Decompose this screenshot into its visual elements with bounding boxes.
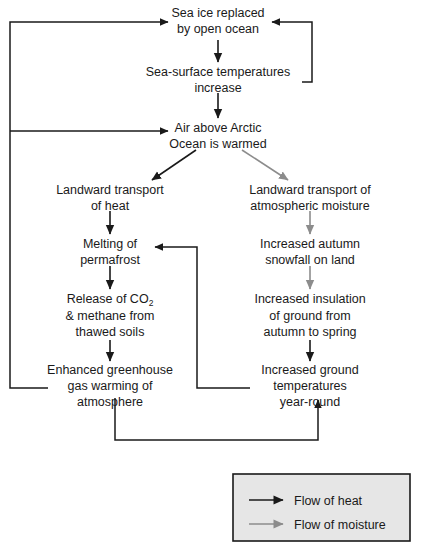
- release-co2-subscript: 2: [149, 298, 154, 308]
- node-landward-transport-moisture: Landward transport of atmospheric moistu…: [249, 183, 371, 213]
- node-label-line: atmospheric moisture: [250, 199, 370, 213]
- node-melting-permafrost: Melting of permafrost: [80, 237, 140, 267]
- node-label-line: gas warming of: [68, 379, 153, 393]
- release-co2-text: Release of CO: [67, 292, 149, 306]
- node-sea-surface-temperatures: Sea-surface temperatures increase: [146, 65, 291, 95]
- node-label-line: thawed soils: [76, 325, 145, 339]
- node-label-line: Sea ice replaced: [171, 6, 264, 20]
- legend-label-heat: Flow of heat: [294, 494, 363, 508]
- node-label-line: Release of CO2: [67, 292, 154, 308]
- node-label-line: year-round: [280, 395, 340, 409]
- node-label-line: Sea-surface temperatures: [146, 65, 291, 79]
- legend: Flow of heat Flow of moisture: [233, 474, 410, 541]
- node-label-line: of heat: [91, 199, 130, 213]
- node-label-line: of ground from: [269, 309, 350, 323]
- node-enhanced-greenhouse-warming: Enhanced greenhouse gas warming of atmos…: [47, 363, 173, 409]
- node-label-line: autumn to spring: [263, 325, 356, 339]
- node-label-line: Melting of: [83, 237, 138, 251]
- node-label-line: Ocean is warmed: [169, 137, 266, 151]
- flowchart-canvas: Sea ice replaced by open ocean Sea-surfa…: [0, 0, 421, 551]
- node-sea-ice-replaced: Sea ice replaced by open ocean: [171, 6, 264, 36]
- node-label-line: Increased insulation: [254, 292, 365, 306]
- node-landward-transport-heat: Landward transport of heat: [56, 183, 164, 213]
- node-label-line: by open ocean: [177, 22, 259, 36]
- node-label-line: atmosphere: [77, 395, 143, 409]
- node-increased-ground-temperatures: Increased ground temperatures year-round: [261, 363, 358, 409]
- node-label-line: Enhanced greenhouse: [47, 363, 173, 377]
- edge-air-to-lt-heat: [152, 150, 196, 180]
- node-release-of-co2-methane: Release of CO2 & methane from thawed soi…: [66, 292, 155, 339]
- node-increased-autumn-snowfall: Increased autumn snowfall on land: [260, 237, 360, 267]
- node-label-line: Increased ground: [261, 363, 358, 377]
- node-label-line: Landward transport of: [249, 183, 371, 197]
- node-label-line: permafrost: [80, 253, 140, 267]
- node-label-line: snowfall on land: [265, 253, 355, 267]
- node-label-line: increase: [194, 81, 241, 95]
- node-label-line: temperatures: [273, 379, 347, 393]
- legend-label-moisture: Flow of moisture: [294, 518, 386, 532]
- node-label-line: Landward transport: [56, 183, 164, 197]
- flowchart-diagram: Sea ice replaced by open ocean Sea-surfa…: [0, 0, 421, 551]
- node-label-line: & methane from: [66, 309, 155, 323]
- edge-air-to-lt-moisture: [242, 150, 288, 180]
- node-label-line: Air above Arctic: [175, 121, 262, 135]
- node-increased-insulation-ground: Increased insulation of ground from autu…: [254, 292, 365, 339]
- node-air-above-arctic-ocean: Air above Arctic Ocean is warmed: [169, 121, 266, 151]
- node-label-line: Increased autumn: [260, 237, 360, 251]
